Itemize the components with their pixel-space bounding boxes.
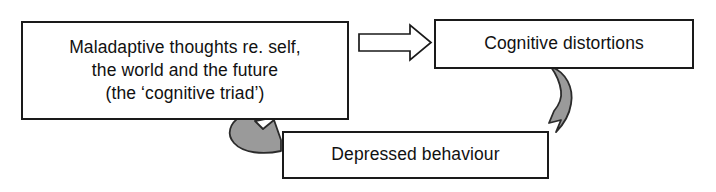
- arrow-triad-to-distortions-icon: [359, 25, 431, 60]
- arrow-distortions-to-behaviour-icon: [549, 67, 572, 132]
- cognitive-model-diagram: Maladaptive thoughts re. self, the world…: [0, 0, 716, 192]
- node-cognitive-triad: Maladaptive thoughts re. self, the world…: [21, 21, 349, 120]
- node-depressed-behaviour-label: Depressed behaviour: [331, 143, 499, 166]
- node-cognitive-distortions-label: Cognitive distortions: [484, 32, 644, 55]
- node-cognitive-distortions: Cognitive distortions: [434, 19, 694, 69]
- node-depressed-behaviour: Depressed behaviour: [282, 131, 549, 179]
- node-cognitive-triad-label: Maladaptive thoughts re. self, the world…: [69, 36, 301, 105]
